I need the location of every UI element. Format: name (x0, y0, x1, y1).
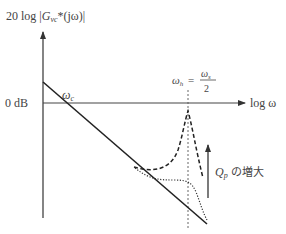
qp-increase-label: Qp の増大 (215, 165, 264, 180)
svg-text:=: = (188, 74, 194, 86)
svg-text:2: 2 (204, 83, 209, 94)
y-axis-label: 20 log |Gvc*(jω)| (6, 9, 85, 24)
resonance-frequency-label: ωh = ωs 2 (172, 68, 216, 94)
svg-text:ωh: ωh (172, 74, 184, 88)
high-q-curve (134, 111, 203, 178)
svg-text:ωs: ωs (201, 68, 211, 81)
zero-db-label: 0 dB (5, 96, 28, 110)
crossover-frequency-label: ωc (62, 88, 74, 103)
low-q-curve (135, 168, 207, 220)
bode-diagram: 20 log |Gvc*(jω)| 0 dB ωc ωh = ωs 2 log … (0, 0, 286, 234)
x-axis-label: log ω (250, 96, 276, 110)
